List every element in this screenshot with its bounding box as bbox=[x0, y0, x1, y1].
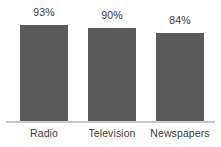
bar-group-radio: 93% bbox=[20, 0, 68, 123]
bar-television bbox=[88, 28, 136, 122]
bar-radio bbox=[20, 25, 68, 122]
category-label-newspapers: Newspapers bbox=[145, 127, 215, 140]
bar-group-television: 90% bbox=[88, 0, 136, 123]
x-axis-line bbox=[6, 121, 215, 123]
category-axis: Radio Television Newspapers bbox=[0, 127, 221, 147]
bar-chart-figure: 93% 90% 84% Radio Television Newspapers bbox=[0, 0, 221, 147]
bar-value-label-radio: 93% bbox=[20, 7, 68, 18]
bar-value-label-newspapers: 84% bbox=[156, 15, 204, 26]
plot-area: 93% 90% 84% bbox=[0, 0, 221, 123]
category-label-radio: Radio bbox=[9, 127, 79, 140]
category-label-television: Television bbox=[77, 127, 147, 140]
bar-group-newspapers: 84% bbox=[156, 0, 204, 123]
bar-value-label-television: 90% bbox=[88, 10, 136, 21]
bar-newspapers bbox=[156, 33, 204, 122]
